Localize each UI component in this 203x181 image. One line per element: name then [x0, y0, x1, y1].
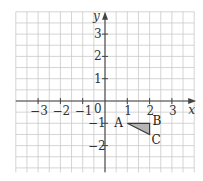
x-tick-label: −2: [52, 104, 70, 118]
vertex-label-b: B: [153, 114, 162, 128]
y-axis-label: y: [92, 9, 100, 23]
y-tick-label: 2: [94, 49, 102, 63]
axes: x y 0: [16, 9, 196, 173]
vertex-label-a: A: [113, 116, 123, 130]
origin-label: 0: [94, 102, 102, 116]
y-tick-label: 1: [94, 72, 102, 86]
y-tick-label: −1: [88, 116, 106, 130]
y-tick-label: −2: [88, 139, 106, 153]
vertex-label-c: C: [152, 133, 161, 147]
x-tick-label: −3: [30, 104, 48, 118]
y-tick-label: 3: [94, 27, 102, 41]
x-tick-label: 3: [169, 104, 177, 118]
x-axis-label: x: [188, 103, 195, 117]
coordinate-plane: x y 0 −3−2−1123321−1−2 ABC: [0, 0, 203, 181]
x-tick-label: 1: [124, 104, 132, 118]
vertex-labels: ABC: [113, 114, 161, 147]
y-axis-arrow-icon: [102, 12, 108, 20]
